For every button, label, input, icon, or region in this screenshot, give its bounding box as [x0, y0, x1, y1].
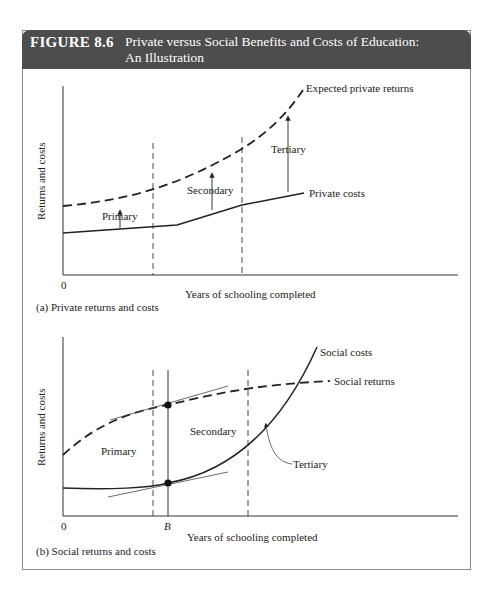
secondary-label: Secondary [187, 184, 234, 196]
social-returns-curve [63, 381, 330, 455]
panel-b: Social costs Social returns Primary Seco… [35, 337, 458, 543]
social-returns-label: Social returns [334, 375, 395, 387]
panel-a-caption: (a) Private returns and costs [36, 301, 159, 313]
expected-private-returns-curve [63, 87, 305, 206]
private-costs-curve [63, 193, 304, 233]
primary-label: Primary [102, 210, 138, 222]
social-costs-label: Social costs [320, 346, 372, 358]
returns-point-b [164, 401, 171, 408]
panel-b-origin: 0 [61, 520, 67, 532]
private-costs-label: Private costs [309, 187, 365, 199]
tertiary-label: Tertiary [271, 143, 306, 155]
panel-a: Expected private returns Private costs P… [35, 82, 458, 300]
tertiary-label-b: Tertiary [293, 458, 328, 470]
primary-label-b: Primary [101, 445, 137, 457]
panel-b-x-label: Years of schooling completed [187, 531, 318, 543]
social-costs-curve [63, 347, 317, 489]
costs-point-b [164, 479, 171, 486]
panel-b-x-marker: B [164, 520, 171, 532]
diagram-canvas: Expected private returns Private costs P… [0, 0, 493, 598]
panel-b-caption: (b) Social returns and costs [36, 545, 156, 557]
secondary-label-b: Secondary [190, 425, 237, 437]
expected-private-returns-label: Expected private returns [306, 82, 414, 94]
panel-a-x-label: Years of schooling completed [185, 288, 316, 300]
tertiary-pointer-arrow [266, 425, 292, 464]
panel-a-y-label: Returns and costs [35, 142, 47, 220]
panel-a-origin: 0 [61, 279, 67, 291]
panel-b-y-label: Returns and costs [35, 388, 47, 466]
